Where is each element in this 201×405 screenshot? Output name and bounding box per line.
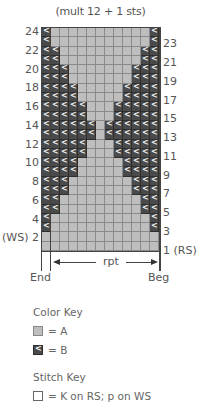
cell-color-a [78, 177, 87, 186]
cell-color-b [123, 167, 132, 176]
cell-color-a [105, 28, 114, 37]
arrow-right-icon [151, 259, 158, 265]
cell-color-a [114, 195, 123, 204]
end-line [41, 27, 43, 271]
cell-color-a [114, 232, 123, 241]
cell-color-a [69, 56, 78, 65]
cell-color-a [114, 65, 123, 74]
cell-color-a [96, 223, 105, 232]
cell-color-a [123, 65, 132, 74]
cell-color-a [123, 37, 132, 46]
cell-color-a [132, 242, 141, 251]
cell-color-a [123, 195, 132, 204]
row-label-left: 10 [25, 157, 39, 168]
cell-color-a [78, 47, 87, 56]
cell-color-a [141, 28, 150, 37]
cell-color-a [141, 242, 150, 251]
knitting-chart-grid [41, 27, 160, 252]
cell-color-a [105, 37, 114, 46]
cell-color-a [96, 112, 105, 121]
row-label-left: 12 [25, 139, 39, 150]
cell-color-a [96, 93, 105, 102]
row-label-right: 7 [163, 188, 170, 199]
cell-color-a [123, 47, 132, 56]
cell-color-a [51, 242, 60, 251]
cell-color-a [123, 223, 132, 232]
cell-color-a [96, 56, 105, 65]
cell-color-a [96, 102, 105, 111]
cell-color-a [141, 223, 150, 232]
cell-color-a [105, 47, 114, 56]
cell-color-a [69, 195, 78, 204]
cell-color-a [114, 47, 123, 56]
cell-color-a [96, 130, 105, 139]
cell-color-a [96, 65, 105, 74]
cell-color-a [78, 37, 87, 46]
cell-color-a [132, 205, 141, 214]
cell-color-a [96, 232, 105, 241]
cell-color-a [87, 223, 96, 232]
row-label-right: 19 [163, 76, 177, 87]
cell-color-b [78, 149, 87, 158]
cell-color-a [105, 56, 114, 65]
end-label: End [30, 271, 51, 284]
cell-color-a [114, 205, 123, 214]
cell-color-a [123, 177, 132, 186]
cell-color-a [114, 177, 123, 186]
cell-color-a [105, 65, 114, 74]
cell-color-a [96, 149, 105, 158]
cell-color-a [123, 56, 132, 65]
cell-color-a [87, 102, 96, 111]
cell-color-a [87, 28, 96, 37]
cell-color-a [69, 37, 78, 46]
cell-color-a [141, 214, 150, 223]
cell-color-a [78, 74, 87, 83]
cell-color-a [60, 223, 69, 232]
cell-color-a [114, 74, 123, 83]
row-label-left: 14 [25, 120, 39, 131]
cell-color-a [105, 195, 114, 204]
cell-color-a [96, 242, 105, 251]
cell-color-a [69, 214, 78, 223]
cell-color-a [105, 167, 114, 176]
cell-color-a [69, 186, 78, 195]
cell-color-a [105, 242, 114, 251]
beg-label: Beg [148, 271, 169, 284]
cell-color-a [114, 214, 123, 223]
cell-color-a [150, 242, 159, 251]
cell-color-a [87, 56, 96, 65]
cell-color-a [69, 177, 78, 186]
cell-color-a [132, 214, 141, 223]
cell-color-a [69, 47, 78, 56]
row-label-right: 15 [163, 113, 177, 124]
chart-title: (mult 12 + 1 sts) [0, 5, 201, 18]
cell-color-a [69, 242, 78, 251]
cell-color-b [51, 205, 60, 214]
row-label-left: 22 [25, 45, 39, 56]
row-label-right: 1 (RS) [163, 245, 197, 256]
cell-color-a [51, 232, 60, 241]
row-label-left: 16 [25, 101, 39, 112]
cell-color-a [87, 74, 96, 83]
row-label-left: 18 [25, 82, 39, 93]
cell-color-a [96, 205, 105, 214]
color-b-swatch-icon [33, 345, 43, 355]
cell-color-b [132, 186, 141, 195]
cell-color-a [96, 167, 105, 176]
cell-color-a [87, 232, 96, 241]
cell-color-a [105, 223, 114, 232]
color-key-item-a: = A [33, 325, 67, 337]
cell-color-a [87, 186, 96, 195]
cell-color-a [114, 242, 123, 251]
cell-color-a [78, 205, 87, 214]
cell-color-a [78, 65, 87, 74]
cell-color-a [96, 84, 105, 93]
cell-color-a [114, 37, 123, 46]
row-label-left: 20 [25, 64, 39, 75]
cell-color-b [141, 205, 150, 214]
cell-color-a [69, 205, 78, 214]
cell-color-a [114, 223, 123, 232]
cell-color-a [87, 93, 96, 102]
cell-color-a [114, 56, 123, 65]
cell-color-a [123, 186, 132, 195]
